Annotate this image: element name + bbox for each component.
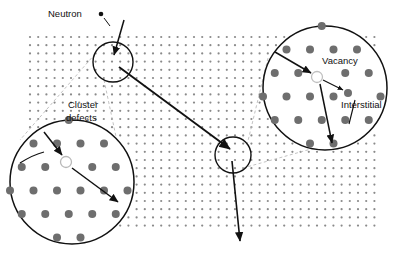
- lattice-atom: [95, 93, 97, 95]
- lattice-atom: [29, 52, 31, 54]
- lattice-atom: [144, 208, 146, 210]
- cluster-defects-label-line1: Cluster: [68, 99, 98, 110]
- lattice-atom: [177, 159, 179, 161]
- lattice-atom: [349, 167, 351, 169]
- lattice-atom: [250, 175, 252, 177]
- lattice-atom: [45, 77, 47, 79]
- lattice-atom: [259, 208, 261, 210]
- lattice-atom: [332, 184, 334, 186]
- lattice-atom: [201, 159, 203, 161]
- lattice-atom: [291, 151, 293, 153]
- lattice-atom: [168, 151, 170, 153]
- lattice-atom: [144, 52, 146, 54]
- lattice-atom: [144, 61, 146, 63]
- lattice-atom: [37, 102, 39, 104]
- lattice-atom: [136, 134, 138, 136]
- lattice-atom: [201, 85, 203, 87]
- lattice-atom: [226, 216, 228, 218]
- lattice-atom: [177, 200, 179, 202]
- lattice-atom: [300, 208, 302, 210]
- lattice-atom: [341, 175, 343, 177]
- lattice-atom: [152, 61, 154, 63]
- lattice-atom: [226, 69, 228, 71]
- magnified-atom: [306, 93, 314, 101]
- lattice-atom: [160, 69, 162, 71]
- lattice-atom: [242, 102, 244, 104]
- lattice-atom: [144, 151, 146, 153]
- lattice-atom: [136, 110, 138, 112]
- lattice-atom: [365, 143, 367, 145]
- lattice-atom: [78, 44, 80, 46]
- lattice-atom: [267, 52, 269, 54]
- lattice-atom: [144, 77, 146, 79]
- lattice-atom: [291, 216, 293, 218]
- lattice-atom: [193, 200, 195, 202]
- lattice-atom: [127, 110, 129, 112]
- lattice-atom: [275, 192, 277, 194]
- lattice-atom: [267, 143, 269, 145]
- lattice-atom: [373, 36, 375, 38]
- lattice-atom: [242, 216, 244, 218]
- lattice-atom: [242, 61, 244, 63]
- magnified-atom: [318, 116, 326, 124]
- lattice-atom: [103, 93, 105, 95]
- lattice-atom: [168, 77, 170, 79]
- lattice-atom: [300, 216, 302, 218]
- magnified-atom: [30, 140, 38, 148]
- lattice-atom: [168, 36, 170, 38]
- lattice-atom: [209, 69, 211, 71]
- lattice-atom: [201, 151, 203, 153]
- lattice-atom: [201, 69, 203, 71]
- lattice-atom: [267, 184, 269, 186]
- lattice-atom: [177, 77, 179, 79]
- lattice-atom: [324, 159, 326, 161]
- lattice-atom: [119, 85, 121, 87]
- lattice-atom: [242, 52, 244, 54]
- lattice-atom: [259, 134, 261, 136]
- lattice-atom: [70, 52, 72, 54]
- vacancy-label: Vacancy: [322, 55, 358, 66]
- lattice-atom: [332, 192, 334, 194]
- lattice-atom: [160, 167, 162, 169]
- lattice-atom: [144, 216, 146, 218]
- interstitial-label: Interstitial: [341, 99, 382, 110]
- lattice-atom: [259, 200, 261, 202]
- lattice-atom: [226, 61, 228, 63]
- lattice-atom: [300, 184, 302, 186]
- lattice-atom: [177, 167, 179, 169]
- lattice-atom: [283, 175, 285, 177]
- lattice-atom: [357, 151, 359, 153]
- lattice-atom: [144, 102, 146, 104]
- lattice-atom: [234, 85, 236, 87]
- lattice-atom: [119, 102, 121, 104]
- lattice-atom: [185, 110, 187, 112]
- lattice-atom: [332, 175, 334, 177]
- lattice-atom: [70, 36, 72, 38]
- lattice-atom: [341, 216, 343, 218]
- lattice-atom: [218, 52, 220, 54]
- lattice-atom: [70, 61, 72, 63]
- lattice-atom: [234, 151, 236, 153]
- lattice-atom: [218, 77, 220, 79]
- lattice-atom: [209, 36, 211, 38]
- magnified-atom: [53, 140, 61, 148]
- lattice-atom: [201, 143, 203, 145]
- lattice-atom: [37, 69, 39, 71]
- lattice-atom: [201, 175, 203, 177]
- lattice-atom: [152, 69, 154, 71]
- lattice-atom: [185, 143, 187, 145]
- lattice-atom: [209, 151, 211, 153]
- lattice-atom: [365, 216, 367, 218]
- lattice-atom: [127, 134, 129, 136]
- lattice-atom: [201, 52, 203, 54]
- lattice-atom: [209, 167, 211, 169]
- lattice-atom: [226, 52, 228, 54]
- lattice-atom: [324, 216, 326, 218]
- lattice-atom: [193, 134, 195, 136]
- lattice-atom: [119, 225, 121, 227]
- lattice-atom: [242, 151, 244, 153]
- lattice-atom: [152, 200, 154, 202]
- magnified-atom: [330, 140, 338, 148]
- lattice-atom: [267, 216, 269, 218]
- lattice-atom: [332, 167, 334, 169]
